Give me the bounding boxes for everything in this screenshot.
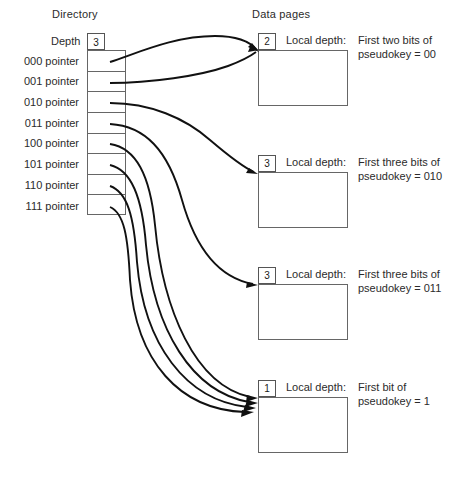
local-depth-label: Local depth: [286,381,346,393]
directory-entry-111[interactable]: 111 pointer [88,195,125,216]
local-depth-label: Local depth: [286,268,346,280]
pointer-arrow-101 [110,165,258,407]
data-page-description-line2: pseudokey = 1 [358,394,430,408]
directory-entry-010[interactable]: 010 pointer [88,92,125,113]
pointer-arrow-110 [110,186,256,412]
extendible-hashing-diagram: Directory Data pages Depth 3 000 pointer… [0,0,459,487]
local-depth-label: Local depth: [286,34,346,46]
local-depth-value: 2 [258,33,276,50]
data-page-description-line1: First three bits of [358,155,442,169]
data-pages-title: Data pages [252,8,310,20]
pointer-arrow-010 [110,103,258,174]
data-page-body [258,172,348,228]
pointer-arrow-100 [110,144,258,402]
data-page-description-line2: pseudokey = 011 [358,281,441,295]
data-page-description: First bit of pseudokey = 1 [358,380,430,408]
pointer-arrows [0,0,459,487]
directory-entry-label: 000 pointer [24,55,79,67]
local-depth-value: 3 [258,155,276,172]
pointer-arrow-011 [110,124,258,288]
local-depth-label: Local depth: [286,156,346,168]
directory-entry-100[interactable]: 100 pointer [88,134,125,155]
data-page-body [258,284,348,340]
data-page-description-line1: First three bits of [358,267,441,281]
data-page-description-line2: pseudokey = 010 [358,169,442,183]
data-page-description: First two bits of pseudokey = 00 [358,33,436,61]
directory-entry-label: 011 pointer [25,117,79,129]
directory-entry-label: 110 pointer [25,179,79,191]
data-page-body [258,397,348,453]
pointer-arrow-000 [110,36,259,62]
pointer-arrow-111 [110,207,254,417]
directory-entry-101[interactable]: 101 pointer [88,154,125,175]
global-depth-label: Depth [51,35,80,47]
directory-entry-011[interactable]: 011 pointer [88,113,125,134]
directory-box: 000 pointer 001 pointer 010 pointer 011 … [87,50,126,215]
directory-entry-110[interactable]: 110 pointer [88,175,125,196]
local-depth-value: 1 [258,380,276,397]
directory-entry-label: 111 pointer [26,200,79,212]
directory-entry-000[interactable]: 000 pointer [88,51,125,72]
data-page-description-line2: pseudokey = 00 [358,47,436,61]
directory-entry-label: 001 pointer [24,75,79,87]
directory-entry-001[interactable]: 001 pointer [88,72,125,93]
directory-title: Directory [52,8,98,20]
pointer-arrow-001 [110,47,259,83]
global-depth-value: 3 [87,33,105,50]
data-page-description: First three bits of pseudokey = 010 [358,155,442,183]
data-page-description-line1: First bit of [358,380,430,394]
directory-entry-label: 101 pointer [24,158,79,170]
local-depth-value: 3 [258,267,276,284]
directory-entry-label: 100 pointer [24,137,79,149]
directory-entry-label: 010 pointer [24,96,79,108]
data-page-description: First three bits of pseudokey = 011 [358,267,441,295]
data-page-description-line1: First two bits of [358,33,436,47]
data-page-body [258,50,348,106]
